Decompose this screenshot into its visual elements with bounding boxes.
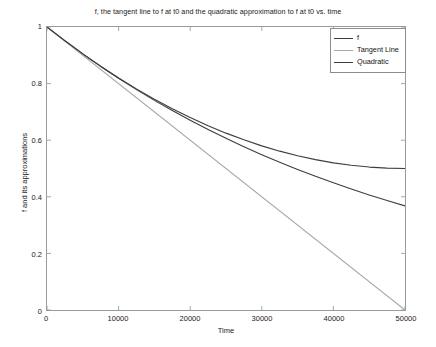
legend-item: Tangent Line xyxy=(331,44,405,56)
legend-swatch-icon xyxy=(334,62,353,63)
x-tick-label: 30000 xyxy=(252,314,273,323)
x-tick-label: 0 xyxy=(44,314,48,323)
y-tick-label: 0.8 xyxy=(8,79,42,88)
legend-swatch-icon xyxy=(334,38,353,39)
x-tick-label: 40000 xyxy=(324,314,345,323)
y-tick-label: 1 xyxy=(8,22,42,31)
x-tick-label: 50000 xyxy=(396,314,417,323)
legend-item-label: Quadratic xyxy=(357,58,389,65)
y-tick-label: 0 xyxy=(8,307,42,316)
chart-title: f, the tangent line to f at t0 and the q… xyxy=(0,7,436,16)
x-tick-label: 10000 xyxy=(108,314,129,323)
legend-item: f xyxy=(331,32,405,44)
y-tick-label: 0.2 xyxy=(8,250,42,259)
x-axis-label: Time xyxy=(46,326,406,335)
y-axis-label: f and its approximations xyxy=(20,103,29,243)
chart-legend: fTangent LineQuadratic xyxy=(330,28,406,73)
x-tick-label: 20000 xyxy=(180,314,201,323)
legend-item-label: f xyxy=(357,34,359,41)
legend-item: Quadratic xyxy=(331,56,405,68)
figure-canvas: f, the tangent line to f at t0 and the q… xyxy=(0,0,436,347)
legend-swatch-icon xyxy=(334,50,353,51)
legend-item-label: Tangent Line xyxy=(357,46,399,53)
